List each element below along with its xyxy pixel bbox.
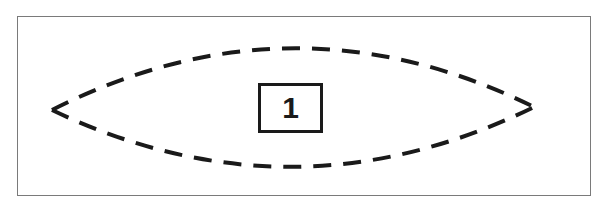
- region-label-box: 1: [258, 83, 323, 133]
- region-label: 1: [282, 93, 299, 123]
